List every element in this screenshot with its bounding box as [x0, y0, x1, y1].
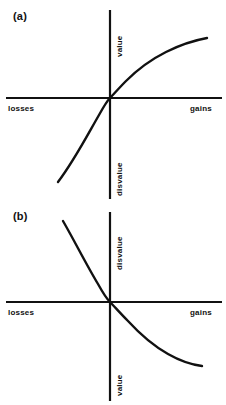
panel-a-disvalue-label: disvalue: [116, 162, 124, 196]
panel-a-plot: [0, 0, 226, 203]
panel-a-tag: (a): [13, 11, 27, 22]
panel-b-gains-label: gains: [190, 309, 212, 317]
panel-b-disvalue-label: disvalue: [116, 236, 124, 270]
panel-a-value-curve: [58, 38, 207, 182]
panel-a: (a) losses gains value disvalue: [0, 0, 226, 203]
panel-a-gains-label: gains: [190, 105, 212, 113]
panel-b-value-label: value: [116, 375, 124, 396]
panel-a-value-label: value: [116, 36, 124, 57]
panel-b-losses-label: losses: [8, 309, 34, 317]
panel-b-disvalue-curve: [63, 221, 202, 366]
panel-b: (b) losses gains disvalue value: [0, 202, 226, 405]
panel-b-tag: (b): [13, 211, 28, 222]
panel-b-plot: [0, 202, 226, 405]
panel-a-losses-label: losses: [8, 105, 34, 113]
figure-root: (a) losses gains value disvalue (b) loss…: [0, 0, 226, 405]
